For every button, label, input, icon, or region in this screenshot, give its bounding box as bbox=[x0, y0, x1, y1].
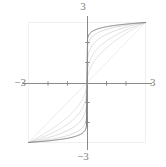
plot-figure: 3 −3 −3 3 bbox=[0, 0, 166, 167]
axis-label-x-min: −3 bbox=[2, 77, 26, 88]
axis-label-y-min: −3 bbox=[0, 151, 166, 162]
axis-label-y-max: 3 bbox=[0, 1, 166, 12]
axis-label-x-max: 3 bbox=[150, 77, 164, 88]
